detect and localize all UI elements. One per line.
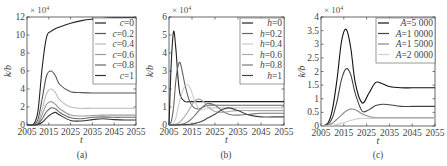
x-axis-label: t [377, 135, 380, 146]
y-tick-label: 1.5 [307, 80, 319, 90]
legend-label: c=0.2 [113, 29, 135, 39]
legend-label: h=0.6 [260, 50, 282, 60]
y-tick-label: 1 [162, 102, 167, 112]
panel-caption: (a) [77, 150, 88, 161]
series-line [321, 118, 435, 126]
x-tick-label: 2025 [61, 127, 80, 137]
y-tick-label: 5 [162, 30, 167, 40]
x-tick-label: 2045 [252, 127, 271, 137]
panel-a: 024681012200520152025203520452055× 104tk… [2, 5, 146, 161]
x-tick-label: 2015 [39, 127, 58, 137]
figure: 024681012200520152025203520452055× 104tk… [0, 0, 447, 166]
y-tick-label: 3.5 [307, 26, 319, 36]
y-tick-label: 6 [162, 12, 167, 22]
x-tick-label: 2005 [18, 127, 37, 137]
legend-label: c=0 [120, 18, 135, 28]
series-line [321, 109, 435, 126]
y-exponent-label: × 104 [324, 5, 343, 15]
panel-caption: (b) [220, 150, 231, 161]
legend-label: h=0 [267, 18, 282, 28]
series-line [169, 99, 284, 125]
y-axis-label: k/b [144, 65, 155, 77]
x-tick-label: 2055 [426, 128, 445, 138]
legend: c=0c=0.2c=0.4c=0.6c=0.8c=1 [93, 18, 136, 84]
x-tick-label: 2025 [206, 127, 225, 137]
x-tick-label: 2025 [357, 128, 376, 138]
legend-label: A=2 0000 [395, 50, 434, 60]
x-tick-label: 2045 [105, 127, 124, 137]
y-tick-label: 3 [162, 66, 167, 76]
panel-c: 00.511.522.533.5420052015202520352045205… [296, 5, 445, 161]
y-tick-label: 2 [162, 84, 167, 94]
y-tick-label: 1 [314, 94, 319, 104]
x-tick-label: 2035 [229, 127, 248, 137]
y-tick-label: 2.5 [307, 53, 319, 63]
y-tick-label: 2 [314, 67, 319, 77]
legend: A=5 000A=1 0000A=1 5000A=2 0000 [376, 18, 435, 63]
legend-label: A=1 0000 [395, 29, 434, 39]
legend-label: A=1 5000 [395, 39, 434, 49]
y-tick-label: 10 [16, 30, 26, 40]
legend-label: h=1 [267, 71, 282, 81]
y-tick-label: 4 [314, 12, 319, 22]
legend: h=0h=0.2h=0.4h=0.6h=0.8h=1 [240, 18, 284, 84]
x-tick-label: 2035 [83, 127, 102, 137]
y-tick-label: 0.5 [307, 107, 319, 117]
x-tick-label: 2015 [334, 128, 353, 138]
y-exponent-label: × 104 [172, 5, 191, 15]
legend-label: h=0.4 [260, 39, 282, 49]
y-tick-label: 12 [16, 12, 26, 22]
panel-caption: (c) [373, 150, 384, 161]
legend-label: c=0.6 [113, 50, 135, 60]
legend-label: c=0.4 [113, 39, 135, 49]
x-tick-label: 2055 [127, 127, 146, 137]
x-tick-label: 2035 [380, 128, 399, 138]
x-axis-label: t [225, 134, 228, 145]
x-tick-label: 2005 [312, 128, 331, 138]
x-tick-label: 2045 [403, 128, 422, 138]
x-tick-label: 2005 [160, 127, 179, 137]
y-tick-label: 8 [20, 48, 25, 58]
y-tick-label: 6 [20, 66, 25, 76]
y-axis-label: k/b [296, 65, 307, 77]
x-axis-label: t [80, 134, 83, 145]
legend-label: c=0.8 [113, 60, 135, 70]
x-tick-label: 2015 [183, 127, 202, 137]
legend-label: A=5 000 [399, 18, 433, 28]
y-tick-label: 3 [314, 39, 319, 49]
legend-label: h=0.8 [260, 60, 282, 70]
x-tick-label: 2055 [275, 127, 294, 137]
y-tick-label: 4 [20, 84, 25, 94]
y-axis-label: k/b [2, 65, 13, 77]
y-tick-label: 4 [162, 48, 167, 58]
y-tick-label: 2 [20, 102, 25, 112]
legend-label: c=1 [120, 71, 135, 81]
legend-label: h=0.2 [260, 29, 282, 39]
y-exponent-label: × 104 [30, 5, 49, 15]
panel-b: 0123456200520152025203520452055× 104tk/b… [144, 5, 294, 161]
